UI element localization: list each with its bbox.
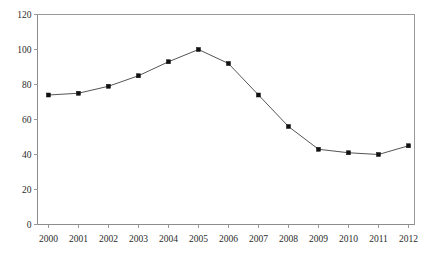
data-point-marker (346, 151, 350, 155)
x-axis-tick-label: 2009 (309, 234, 328, 244)
data-point-marker (76, 91, 80, 95)
y-axis-ticks: 020406080100120 (17, 10, 37, 230)
data-point-marker (106, 84, 110, 88)
x-axis-ticks: 2000200120022003200420052006200720082009… (39, 225, 418, 244)
data-point-marker (196, 48, 200, 52)
x-axis-tick-label: 2000 (39, 234, 58, 244)
line-chart: 020406080100120 200020012002200320042005… (0, 0, 424, 269)
chart-axes (38, 15, 415, 225)
data-point-marker (226, 62, 230, 66)
data-point-marker (376, 153, 380, 157)
x-axis-tick-label: 2003 (129, 234, 148, 244)
x-axis-tick-label: 2011 (369, 234, 388, 244)
y-axis-tick-label: 100 (17, 45, 32, 55)
data-point-marker (407, 144, 411, 148)
data-point-marker (286, 125, 290, 129)
data-point-marker (316, 147, 320, 151)
x-axis-tick-label: 2005 (189, 234, 208, 244)
x-axis-tick-label: 2007 (249, 234, 268, 244)
y-axis-tick-label: 40 (22, 150, 32, 160)
x-axis-tick-label: 2010 (339, 234, 358, 244)
y-axis-tick-label: 0 (27, 220, 32, 230)
x-axis-tick-label: 2001 (69, 234, 88, 244)
x-axis-tick-label: 2006 (219, 234, 238, 244)
x-axis-tick-label: 2002 (99, 234, 118, 244)
data-point-marker (256, 93, 260, 97)
x-axis-tick-label: 2012 (399, 234, 418, 244)
y-axis-tick-label: 120 (17, 10, 32, 20)
data-point-marker (46, 93, 50, 97)
y-axis-tick-label: 60 (22, 115, 32, 125)
data-point-marker (166, 60, 170, 64)
y-axis-tick-label: 80 (22, 80, 32, 90)
x-axis-tick-label: 2008 (279, 234, 298, 244)
y-axis-tick-label: 20 (22, 185, 32, 195)
data-series (46, 48, 410, 157)
chart-plot-area: 020406080100120 200020012002200320042005… (0, 0, 424, 269)
x-axis-tick-label: 2004 (159, 234, 178, 244)
data-point-marker (136, 74, 140, 78)
